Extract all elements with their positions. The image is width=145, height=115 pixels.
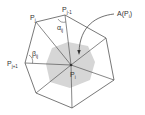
label-beta: βij bbox=[32, 50, 38, 59]
center-point bbox=[70, 64, 73, 67]
label-pj: Pj bbox=[30, 14, 36, 23]
label-area: A(Pi) bbox=[117, 10, 132, 19]
alpha-angle-arc bbox=[58, 19, 66, 22]
label-pj-minus-1: Pj-1 bbox=[62, 6, 72, 15]
triangle-fan-diagram: Pj Pj-1 Pj+1 Pi αij βij A(Pi) bbox=[0, 0, 145, 115]
label-alpha: αij bbox=[57, 24, 63, 33]
label-pj-plus-1: Pj+1 bbox=[7, 60, 18, 69]
